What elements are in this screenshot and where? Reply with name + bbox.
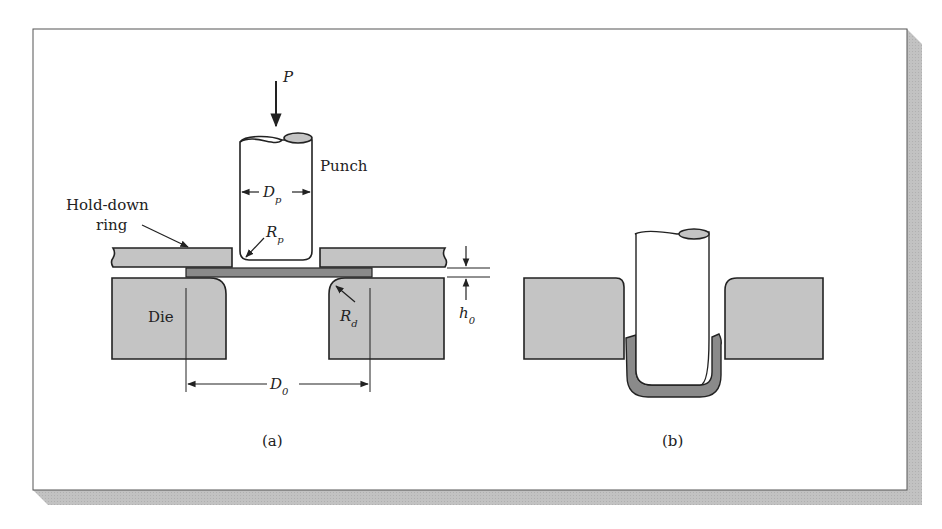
die-label: Die — [148, 308, 174, 326]
punch-label: Punch — [320, 157, 368, 175]
force-label: P — [282, 68, 294, 86]
panel-b-caption: (b) — [662, 432, 683, 450]
hold-down-ring-label-1: Hold-down — [66, 196, 149, 214]
deep-drawing-figure: P Punch Dp Rp Hold-down ring Die — [0, 0, 942, 529]
panel-a-caption: (a) — [262, 432, 283, 450]
sheet-blank — [186, 268, 372, 277]
punch-b — [635, 229, 709, 385]
hold-down-ring-label-2: ring — [96, 216, 128, 234]
